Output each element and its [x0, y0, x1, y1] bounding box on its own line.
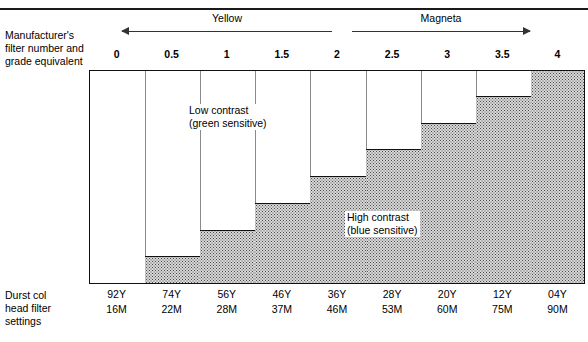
grade-label-2: 2 [309, 47, 364, 61]
durst-cell-2: 36Y46M [309, 287, 364, 317]
durst-settings-row: 92Y16M74Y22M56Y28M46Y37M36Y46M28Y53M20Y6… [89, 287, 585, 319]
durst-cell-3-5: 12Y75M [475, 287, 530, 317]
grade-number-row: 00.511.522.533.54 [89, 47, 585, 65]
annotation-low-contrast-line-2: (green sensitive) [189, 117, 267, 130]
band-yellow: Yellow [122, 14, 332, 44]
grade-label-0: 0 [89, 47, 144, 61]
arrow-right-icon [523, 27, 531, 35]
durst-yellow-value: 28Y [365, 287, 420, 302]
durst-yellow-value: 36Y [309, 287, 364, 302]
durst-magenta-value: 22M [144, 302, 199, 317]
step-1-5 [255, 203, 310, 283]
grade-label-3-5: 3.5 [475, 47, 530, 61]
durst-cell-0: 92Y16M [89, 287, 144, 317]
durst-yellow-value: 04Y [530, 287, 585, 302]
durst-caption-line-3: settings [5, 315, 90, 328]
durst-yellow-value: 12Y [475, 287, 530, 302]
band-yellow-line [122, 31, 332, 32]
durst-magenta-value: 16M [89, 302, 144, 317]
durst-cell-4: 04Y90M [530, 287, 585, 317]
arrow-left-icon [121, 27, 129, 35]
durst-yellow-value: 46Y [254, 287, 309, 302]
grade-label-2-5: 2.5 [365, 47, 420, 61]
durst-magenta-value: 37M [254, 302, 309, 317]
step-3 [421, 123, 476, 284]
staircase-chart-plot: Low contrast (green sensitive) High cont… [89, 70, 585, 284]
annotation-high-contrast-line-2: (blue sensitive) [347, 224, 418, 237]
durst-magenta-value: 28M [199, 302, 254, 317]
annotation-low-contrast-line-1: Low contrast [189, 104, 267, 117]
durst-cell-1-5: 46Y37M [254, 287, 309, 317]
durst-cell-0-5: 74Y22M [144, 287, 199, 317]
durst-yellow-value: 74Y [144, 287, 199, 302]
durst-magenta-value: 46M [309, 302, 364, 317]
band-magenta-label: Magneta [352, 12, 530, 24]
durst-caption-line-2: head filter [5, 302, 90, 315]
grade-label-0-5: 0.5 [144, 47, 199, 61]
durst-yellow-value: 20Y [420, 287, 475, 302]
durst-caption: Durst col head filter settings [5, 289, 90, 329]
durst-cell-3: 20Y60M [420, 287, 475, 317]
step-3-5 [476, 96, 531, 283]
durst-magenta-value: 60M [420, 302, 475, 317]
grade-label-1-5: 1.5 [254, 47, 309, 61]
durst-cell-2-5: 28Y53M [365, 287, 420, 317]
annotation-high-contrast-line-1: High contrast [347, 211, 418, 224]
durst-caption-line-1: Durst col [5, 289, 90, 302]
band-magenta-line [352, 31, 530, 32]
annotation-low-contrast: Low contrast (green sensitive) [187, 104, 269, 130]
step-1 [200, 230, 255, 284]
band-yellow-label: Yellow [122, 12, 332, 24]
step-0-5 [145, 256, 200, 283]
gridline-1 [145, 71, 146, 283]
durst-magenta-value: 53M [365, 302, 420, 317]
manufacturer-caption-line-1: Manufacturer's [5, 29, 110, 42]
durst-yellow-value: 92Y [89, 287, 144, 302]
top-horizontal-rule [0, 8, 588, 10]
grade-label-1: 1 [199, 47, 254, 61]
step-4 [531, 70, 585, 283]
durst-magenta-value: 75M [475, 302, 530, 317]
durst-magenta-value: 90M [530, 302, 585, 317]
grade-label-4: 4 [530, 47, 585, 61]
figure-root: Yellow Magneta Manufacturer's filter num… [0, 0, 588, 342]
grade-label-3: 3 [420, 47, 475, 61]
durst-cell-1: 56Y28M [199, 287, 254, 317]
durst-yellow-value: 56Y [199, 287, 254, 302]
band-magenta: Magneta [352, 14, 530, 44]
annotation-high-contrast: High contrast (blue sensitive) [345, 211, 420, 237]
